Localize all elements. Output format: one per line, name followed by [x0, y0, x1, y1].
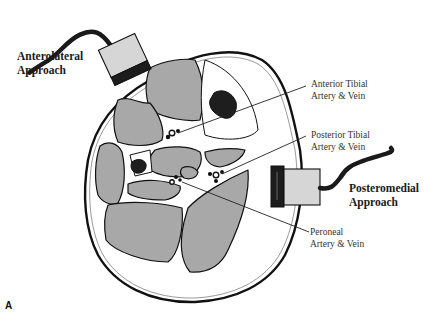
label-anterior-tibial: Anterior Tibial Artery & Vein [311, 79, 368, 102]
muscle-small-peroneal [181, 167, 198, 179]
panel-letter: A [5, 300, 12, 311]
muscle-lateral [96, 143, 125, 204]
fibula-bone [131, 160, 146, 174]
label-anterolateral-approach: Anterolateral Approach [17, 49, 83, 77]
label-posterior-tibial: Posterior Tibial Artery & Vein [311, 130, 370, 153]
probe-body [284, 169, 320, 205]
label-peroneal: Peroneal Artery & Vein [310, 227, 364, 250]
probe-band [271, 166, 284, 207]
label-posteromedial-approach: Posteromedial Approach [349, 181, 419, 209]
